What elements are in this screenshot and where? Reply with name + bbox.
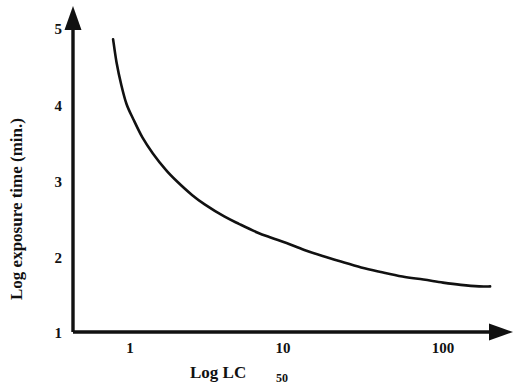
y-tick-label-1: 1	[55, 325, 63, 341]
y-tick-label-4: 4	[55, 98, 63, 114]
chart-figure: 5 4 3 2 1 1 10 100 Log exposure time (mi…	[0, 0, 526, 387]
y-tick-label-5: 5	[55, 21, 63, 37]
y-tick-label-2: 2	[55, 250, 63, 266]
x-axis-title-base: Log LC	[190, 363, 246, 382]
x-axis-title-subscript: 50	[276, 371, 288, 385]
y-tick-label-3: 3	[55, 174, 63, 190]
x-tick-label-10: 10	[276, 340, 291, 356]
y-axis-title: Log exposure time (min.)	[7, 118, 26, 300]
x-tick-label-100: 100	[432, 340, 455, 356]
x-tick-label-1: 1	[126, 340, 134, 356]
chart-canvas: 5 4 3 2 1 1 10 100 Log exposure time (mi…	[0, 0, 526, 387]
chart-background	[0, 0, 526, 387]
